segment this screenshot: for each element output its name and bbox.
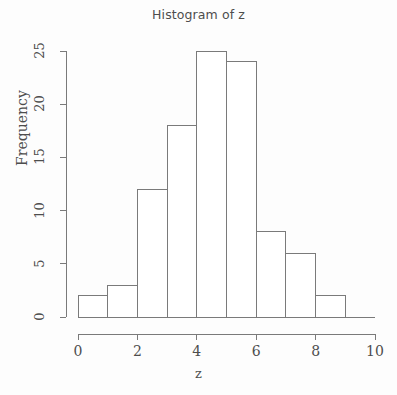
histogram-bar bbox=[108, 285, 138, 317]
x-tick-label: 10 bbox=[358, 343, 392, 359]
histogram-bars bbox=[78, 51, 345, 317]
histogram-bar bbox=[197, 51, 227, 317]
histogram-bar bbox=[256, 232, 286, 317]
y-tick-label: 25 bbox=[32, 34, 47, 68]
y-tick-label: 15 bbox=[32, 140, 47, 174]
y-tick-label: 10 bbox=[32, 193, 47, 227]
x-tick-label: 4 bbox=[180, 343, 214, 359]
x-tick-label: 6 bbox=[239, 343, 273, 359]
x-tick-label: 2 bbox=[120, 343, 154, 359]
histogram-bar bbox=[137, 189, 167, 317]
histogram-bar bbox=[227, 62, 257, 317]
y-tick-label: 5 bbox=[32, 246, 47, 280]
histogram-bar bbox=[316, 296, 346, 317]
plot-canvas bbox=[0, 0, 397, 395]
x-axis bbox=[78, 317, 375, 340]
x-tick-label: 8 bbox=[299, 343, 333, 359]
histogram-bar bbox=[286, 253, 316, 317]
histogram-bar bbox=[167, 125, 197, 317]
histogram-plot: Histogram of z Frequency z 0510152025 02… bbox=[0, 0, 397, 395]
y-axis bbox=[60, 51, 66, 317]
histogram-bar bbox=[78, 296, 108, 317]
x-tick-label: 0 bbox=[61, 343, 95, 359]
y-tick-label: 0 bbox=[32, 300, 47, 334]
y-tick-label: 20 bbox=[32, 87, 47, 121]
